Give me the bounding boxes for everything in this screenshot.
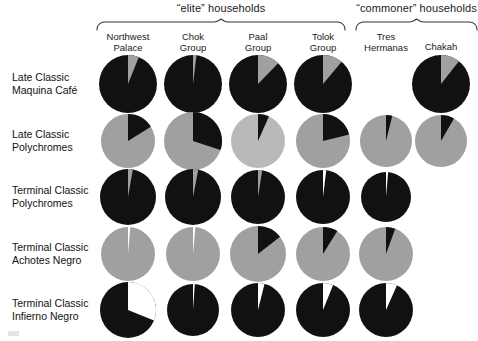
group-brace-0 — [96, 18, 346, 32]
row-label-terminal-classic-infierno-negro: Terminal ClassicInfierno Negro — [12, 297, 102, 322]
row-label-line1: Late Classic — [12, 128, 102, 141]
pie-chart-terminal-classic-achotes-negro-paal-group — [230, 226, 286, 282]
group-brace-label-0: “elite” households — [96, 2, 346, 14]
pie-chart-late-classic-polychromes-chakah — [415, 115, 467, 167]
pie-chart-terminal-classic-polychromes-tolok-group — [296, 170, 350, 224]
row-label-line2: Polychromes — [12, 197, 102, 210]
group-brace-label-1: “commoner” households — [355, 2, 478, 14]
row-label-terminal-classic-polychromes: Terminal ClassicPolychromes — [12, 184, 102, 209]
pie-chart-terminal-classic-polychromes-tres-hermanas — [361, 172, 411, 222]
row-label-line1: Late Classic — [12, 71, 102, 84]
column-header-line1: Chakah — [401, 42, 478, 53]
pie-chart-late-classic-maquina-cafe-northwest-palace — [99, 55, 157, 113]
pie-chart-terminal-classic-polychromes-chok-group — [165, 169, 221, 225]
pie-chart-late-classic-polychromes-tolok-group — [296, 114, 350, 168]
pie-chart-late-classic-maquina-cafe-paal-group — [229, 55, 287, 113]
column-header-chakah: Chakah — [401, 42, 478, 53]
row-label-line2: Infierno Negro — [12, 310, 102, 323]
pie-chart-late-classic-polychromes-northwest-palace — [101, 114, 155, 168]
row-label-line2: Maquina Café — [12, 84, 102, 97]
group-brace-1 — [355, 18, 478, 32]
pie-chart-terminal-classic-achotes-negro-tolok-group — [296, 227, 350, 281]
pie-chart-terminal-classic-infierno-negro-tres-hermanas — [359, 283, 413, 337]
pie-chart-terminal-classic-infierno-negro-paal-group — [231, 283, 285, 337]
pie-chart-terminal-classic-polychromes-northwest-palace — [100, 169, 156, 225]
pie-matrix-figure: “elite” households“commoner” householdsN… — [0, 0, 478, 341]
row-label-line2: Achotes Negro — [12, 254, 102, 267]
pie-chart-terminal-classic-infierno-negro-northwest-palace — [100, 282, 156, 338]
pie-chart-terminal-classic-achotes-negro-chok-group — [166, 227, 220, 281]
scan-artifact — [8, 331, 19, 336]
pie-chart-terminal-classic-infierno-negro-chok-group — [167, 284, 219, 336]
row-label-terminal-classic-achotes-negro: Terminal ClassicAchotes Negro — [12, 241, 102, 266]
pie-chart-late-classic-polychromes-paal-group — [231, 114, 285, 168]
pie-chart-terminal-classic-infierno-negro-tolok-group — [296, 283, 350, 337]
row-label-line1: Terminal Classic — [12, 184, 102, 197]
pie-chart-late-classic-polychromes-chok-group — [164, 112, 222, 170]
row-label-line1: Terminal Classic — [12, 297, 102, 310]
column-header-line1: Tres — [346, 32, 426, 43]
row-label-late-classic-polychromes: Late ClassicPolychromes — [12, 128, 102, 153]
pie-chart-terminal-classic-achotes-negro-northwest-palace — [101, 227, 155, 281]
pie-chart-late-classic-polychromes-tres-hermanas — [360, 115, 412, 167]
row-label-line2: Polychromes — [12, 141, 102, 154]
pie-chart-terminal-classic-polychromes-paal-group — [231, 170, 285, 224]
row-label-late-classic-maquina-cafe: Late ClassicMaquina Café — [12, 71, 102, 96]
pie-chart-late-classic-maquina-cafe-tolok-group — [294, 55, 352, 113]
pie-chart-late-classic-maquina-cafe-chok-group — [164, 55, 222, 113]
pie-chart-late-classic-maquina-cafe-chakah — [412, 55, 470, 113]
row-label-line1: Terminal Classic — [12, 241, 102, 254]
pie-chart-terminal-classic-achotes-negro-tres-hermanas — [359, 227, 413, 281]
